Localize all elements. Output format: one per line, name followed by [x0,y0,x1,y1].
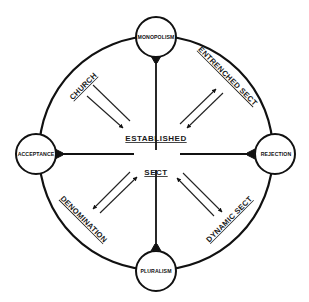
node-label-monopolism: MONOPOLISM [137,34,174,40]
arrow-church-outer [93,85,130,121]
arrow-dynamic-up [177,178,214,216]
node-acceptance: ACCEPTANCE [16,134,56,174]
node-label-pluralism: PLURALISM [140,268,171,274]
node-label-acceptance: ACCEPTANCE [18,151,55,157]
type-label-denomination: DENOMINATION [58,194,109,245]
arrow-dynamic-down [183,173,222,212]
node-rejection: REJECTION [255,134,295,174]
center-label-sect: SECT [144,168,167,177]
center-label-established: ESTABLISHED [125,134,186,143]
arrows [87,85,223,216]
node-pluralism: PLURALISM [136,251,176,291]
arrow-denomination-down [93,172,130,209]
arrow-entrenched-up [180,89,216,124]
node-monopolism: MONOPOLISM [136,17,176,57]
arrow-denomination-up [100,177,137,213]
arrow-entrenched-down [187,93,223,128]
arrow-church-inner [87,96,123,128]
church-sect-typology-diagram: MONOPOLISM REJECTION PLURALISM ACCEPTANC… [0,0,309,302]
node-label-rejection: REJECTION [261,151,292,157]
spoke-bottom-flare [151,244,161,251]
spoke-right-flare [247,149,255,159]
